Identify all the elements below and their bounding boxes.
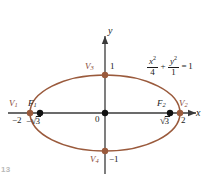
vertex-v4-value: −1: [109, 155, 119, 164]
focus-f2-label: F2: [157, 99, 166, 109]
equation-right-hand-side: 1: [188, 61, 193, 71]
focus-f2-radical: √3: [160, 116, 170, 126]
focus-f2-sub: 2: [163, 101, 166, 108]
y-term-numerator: y2: [168, 55, 179, 68]
y-term-fraction: y2 1: [168, 55, 179, 77]
vertex-v2-label: V2: [179, 99, 188, 109]
vertex-v2-value: 2: [181, 116, 186, 125]
equation-plus-sign: +: [161, 61, 166, 71]
ellipse-figure: x y 0 V1 −2 F1 −√3 F2 √3 V2 2 V3 1 V4 −1…: [0, 0, 216, 176]
y-axis-label: y: [108, 26, 112, 36]
focus-f1-radical: √3: [31, 116, 41, 126]
origin-point: [102, 110, 108, 116]
vertex-v1-sub: 1: [15, 101, 18, 108]
focus-f1-label: F1: [28, 99, 37, 109]
vertex-v4-label: V4: [90, 155, 99, 165]
x-axis-label: x: [196, 108, 200, 118]
vertex-v4-point: [102, 148, 108, 154]
y-term-denominator: 1: [169, 68, 178, 78]
focus-f1-value: −√3: [26, 116, 41, 126]
x-term-fraction: x2 4: [147, 55, 158, 77]
focus-f1-radicand: 3: [36, 116, 42, 126]
vertex-v2-sub: 2: [185, 101, 188, 108]
figure-number: 13: [1, 165, 11, 174]
vertex-v3-point: [102, 72, 108, 78]
vertex-v1-value: −2: [12, 116, 22, 125]
vertex-v3-label: V3: [85, 62, 94, 72]
x-term-numerator: x2: [147, 55, 158, 68]
y-axis-arrowhead: [102, 36, 108, 44]
x-term-denominator: 4: [148, 68, 157, 78]
focus-f1-sub: 1: [34, 101, 37, 108]
x-term-exponent: 2: [153, 55, 156, 61]
vertex-v3-value: 1: [110, 62, 115, 71]
vertex-v3-sub: 3: [91, 64, 94, 71]
equation-equals-sign: =: [182, 61, 187, 71]
vertex-v4-sub: 4: [96, 157, 99, 164]
focus-f2-value: √3: [160, 116, 170, 126]
vertex-v1-label: V1: [9, 99, 18, 109]
focus-f2-radicand: 3: [165, 116, 171, 126]
x-axis-arrowhead: [188, 110, 196, 116]
ellipse-equation: x2 4 + y2 1 = 1: [146, 55, 193, 77]
y-term-exponent: 2: [174, 55, 177, 61]
origin-label: 0: [95, 115, 100, 124]
